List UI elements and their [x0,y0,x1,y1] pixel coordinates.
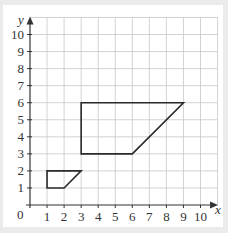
y-tick-label: 3 [18,146,25,161]
x-tick-label: 1 [44,209,51,224]
x-tick-label: 6 [129,209,136,224]
y-tick-label: 4 [18,129,25,144]
x-tick-label: 2 [61,209,68,224]
y-tick-label: 10 [11,27,24,42]
coordinate-grid: 1234567891012345678910 x y 0 [0,0,228,233]
x-tick-label: 8 [163,209,170,224]
axes [26,16,218,208]
x-tick-label: 4 [95,209,102,224]
grid-lines [30,17,218,205]
x-tick-label: 7 [146,209,153,224]
x-tick-label: 10 [194,209,207,224]
tick-marks [27,35,201,209]
x-tick-label: 5 [112,209,119,224]
origin-label: 0 [17,207,24,222]
y-tick-label: 6 [18,95,25,110]
y-tick-label: 1 [18,180,25,195]
x-tick-label: 9 [180,209,187,224]
tick-labels: 1234567891012345678910 [11,27,207,224]
x-tick-label: 3 [78,209,85,224]
x-axis-label: x [214,202,221,217]
y-tick-label: 8 [18,61,25,76]
y-tick-label: 5 [18,112,25,127]
y-tick-label: 7 [18,78,25,93]
y-tick-label: 9 [18,44,25,59]
y-tick-label: 2 [18,163,25,178]
y-axis-label: y [16,12,24,27]
